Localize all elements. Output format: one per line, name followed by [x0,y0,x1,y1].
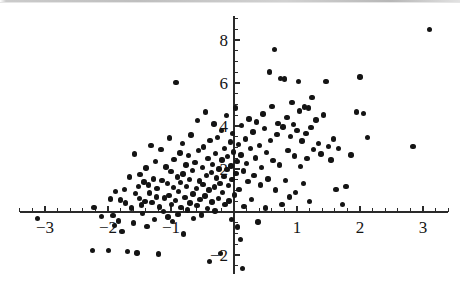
data-point [288,134,293,139]
y-tick-minor [234,18,238,19]
data-point [187,200,192,205]
y-tick-minor [234,29,238,30]
x-tick-label: −3 [36,219,54,236]
x-tick-minor [145,208,146,212]
data-point [309,95,314,100]
data-point [143,165,148,170]
data-point [187,177,192,182]
data-point [154,194,159,199]
x-tick-major [107,206,108,212]
data-point [166,193,171,198]
data-point [283,178,288,183]
data-point [269,104,274,109]
data-point [175,174,180,179]
data-point [308,125,313,130]
x-tick-minor [82,208,83,212]
data-point [148,143,153,148]
data-point [246,116,251,121]
x-tick-label: 3 [419,219,428,236]
data-point [221,174,226,179]
data-point [167,135,172,140]
x-tick-minor [372,208,373,212]
data-point [258,182,263,187]
x-tick-minor [271,208,272,212]
data-point [180,141,185,146]
data-point [333,187,338,192]
x-tick-minor [259,208,260,212]
y-tick-minor [234,72,238,73]
data-point [125,249,130,254]
data-point [311,147,316,152]
data-point [321,112,326,117]
data-point [354,109,359,114]
data-point [142,199,147,204]
data-point [233,105,238,110]
data-point [137,196,142,201]
data-point [273,187,278,192]
data-point [259,165,264,170]
y-tick-minor [234,244,238,245]
x-tick-minor [397,208,398,212]
data-point [122,187,127,192]
data-point [248,146,253,151]
data-point [323,79,328,84]
data-point [257,143,262,148]
data-point [357,74,362,79]
data-point [195,118,200,123]
x-tick-major [359,206,360,212]
y-tick-minor [234,115,238,116]
y-tick-minor [234,233,238,234]
data-point [313,117,318,122]
data-point [137,172,142,177]
data-point [231,149,236,154]
x-tick-minor [322,208,323,212]
data-point [116,218,121,223]
data-point [251,173,256,178]
x-tick-minor [57,208,58,212]
data-point [178,180,183,185]
x-tick-major [296,206,297,212]
y-tick-major [234,82,240,83]
data-point [173,80,178,85]
data-point [202,193,207,198]
data-point [265,176,270,181]
x-tick-minor [246,208,247,212]
data-point [194,186,199,191]
data-point [253,155,258,160]
data-point [188,132,193,137]
data-point [262,126,267,131]
data-point [294,128,299,133]
data-point [219,157,224,162]
y-tick-major [234,254,240,255]
plot-area: −3−2−1123−22468 [0,0,460,289]
data-point [180,171,185,176]
data-point [191,216,196,221]
data-point [272,47,277,52]
data-point [238,152,243,157]
data-point [277,162,282,167]
data-point [285,148,290,153]
data-point [301,181,306,186]
data-point [228,163,233,168]
x-tick-minor [221,208,222,212]
y-tick-minor [234,147,238,148]
data-point [203,109,208,114]
data-point [183,162,188,167]
y-tick-label: 8 [220,32,229,49]
data-point [331,136,336,141]
data-point [326,144,331,149]
x-tick-minor [347,208,348,212]
x-tick-label: 2 [356,219,365,236]
y-tick-major [234,39,240,40]
y-axis-line [233,16,235,274]
data-point [140,211,145,216]
data-point [291,122,296,127]
data-point [233,171,238,176]
data-point [292,153,297,158]
data-point [282,76,287,81]
data-point [132,151,137,156]
x-tick-minor [120,208,121,212]
x-tick-minor [410,208,411,212]
y-tick-minor [234,50,238,51]
data-point [232,192,237,197]
